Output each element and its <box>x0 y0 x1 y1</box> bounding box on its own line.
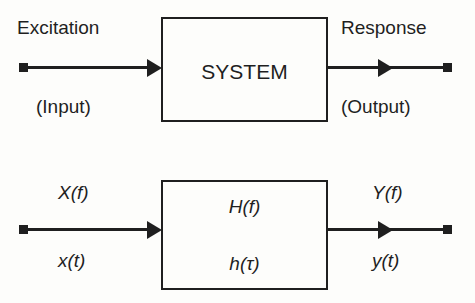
top-output-primary-label: Response <box>341 18 427 37</box>
bottom-output-arrow-right-icon <box>378 221 393 239</box>
top-input-secondary-label: (Input) <box>36 97 91 116</box>
top-input-arrow-right-icon <box>147 59 162 77</box>
top-block-label: SYSTEM <box>163 61 326 82</box>
bottom-block-label-impulse-response: h(τ) <box>163 254 326 273</box>
top-output-arrow-right-icon <box>378 59 393 77</box>
top-input-primary-label: Excitation <box>17 18 99 37</box>
top-input-wire <box>26 66 148 69</box>
bottom-output-secondary-label: y(t) <box>372 251 399 270</box>
bottom-output-square-terminal-icon <box>443 225 452 234</box>
top-output-secondary-label: (Output) <box>341 97 411 116</box>
top-output-square-terminal-icon <box>443 63 452 72</box>
bottom-output-primary-label: Y(f) <box>372 183 403 202</box>
bottom-block-label-frequency: H(f) <box>163 197 326 216</box>
bottom-input-primary-label: X(f) <box>58 183 89 202</box>
figure-canvas: Excitation (Input) SYSTEM Response (Outp… <box>0 0 475 303</box>
top-system-block: SYSTEM <box>161 17 328 122</box>
bottom-input-secondary-label: x(t) <box>58 251 85 270</box>
bottom-input-wire <box>26 228 148 231</box>
bottom-transfer-function-block: H(f) h(τ) <box>161 180 328 290</box>
bottom-input-arrow-right-icon <box>147 221 162 239</box>
